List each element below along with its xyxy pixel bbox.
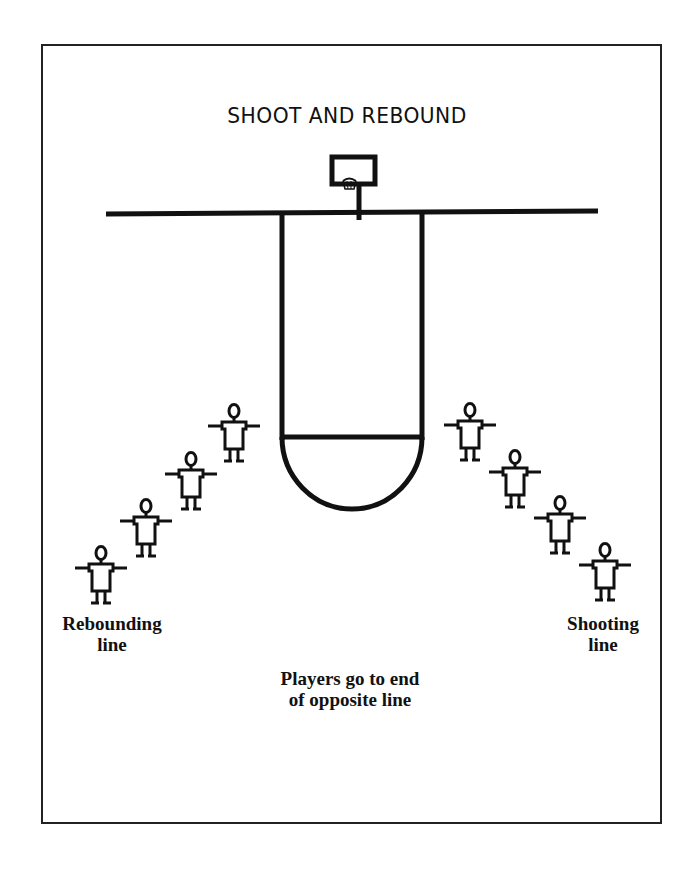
rotation-note: Players go to end of opposite line bbox=[250, 668, 450, 710]
player-icon bbox=[579, 544, 631, 601]
shooting-line-players bbox=[444, 404, 631, 601]
player-icon bbox=[120, 500, 172, 557]
diagram-canvas: SHOOT AND REBOUND bbox=[0, 0, 694, 876]
court-drawing bbox=[0, 0, 694, 876]
baseline bbox=[106, 211, 598, 214]
player-icon bbox=[75, 547, 127, 604]
label-line: line bbox=[42, 634, 182, 655]
rebounding-line-label: Rebounding line bbox=[42, 613, 182, 655]
player-icon bbox=[534, 497, 586, 554]
free-throw-arc bbox=[282, 437, 422, 509]
note-line: of opposite line bbox=[250, 689, 450, 710]
label-line: Shooting bbox=[548, 613, 658, 634]
player-icon bbox=[165, 453, 217, 510]
label-line: Rebounding bbox=[42, 613, 182, 634]
player-icon bbox=[444, 404, 496, 461]
label-line: line bbox=[548, 634, 658, 655]
player-icon bbox=[208, 405, 260, 462]
rebounding-line-players bbox=[75, 405, 260, 604]
player-icon bbox=[489, 451, 541, 508]
shooting-line-label: Shooting line bbox=[548, 613, 658, 655]
note-line: Players go to end bbox=[250, 668, 450, 689]
